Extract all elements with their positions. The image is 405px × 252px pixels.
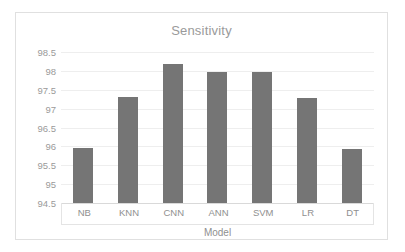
plot-area: 98.59897.59796.59695.59594.5 [61, 52, 374, 203]
x-axis-tick-label: LR [302, 207, 314, 218]
y-axis-tick-label: 96.5 [38, 122, 57, 133]
bar-slot [329, 52, 374, 203]
x-axis-title: Model [61, 227, 374, 238]
bar[interactable] [163, 64, 183, 203]
bar-slot [150, 52, 195, 203]
bar-slot [285, 52, 330, 203]
bar[interactable] [297, 98, 317, 203]
bar[interactable] [252, 72, 272, 203]
y-axis-tick-label: 97 [45, 103, 56, 114]
bar[interactable] [207, 72, 227, 203]
chart-container: Sensitivity 98.59897.59796.59695.59594.5… [15, 12, 388, 240]
y-axis-tick-label: 95.5 [38, 160, 57, 171]
y-axis-tick-label: 98.5 [38, 47, 57, 58]
bar[interactable] [342, 149, 362, 203]
x-axis-tick-label: CNN [163, 207, 184, 218]
category-axis-band: NBKNNCNNANNSVMLRDT [61, 203, 374, 225]
y-axis-tick-label: 98 [45, 65, 56, 76]
bar[interactable] [118, 97, 138, 203]
bar-slot [195, 52, 240, 203]
bar-slot [61, 52, 106, 203]
x-axis-tick-label: SVM [253, 207, 274, 218]
y-axis-tick-label: 97.5 [38, 84, 57, 95]
x-axis-tick-label: ANN [208, 207, 228, 218]
bar-slot [240, 52, 285, 203]
bar-slot [106, 52, 151, 203]
x-axis-tick-label: KNN [119, 207, 139, 218]
chart-title: Sensitivity [16, 23, 387, 38]
bar-series [61, 52, 374, 203]
x-axis-tick-label: DT [346, 207, 359, 218]
y-axis-tick-label: 96 [45, 141, 56, 152]
y-axis-tick-label: 94.5 [38, 198, 57, 209]
x-axis-tick-label: NB [78, 207, 91, 218]
y-axis-tick-label: 95 [45, 179, 56, 190]
bar[interactable] [73, 148, 93, 203]
